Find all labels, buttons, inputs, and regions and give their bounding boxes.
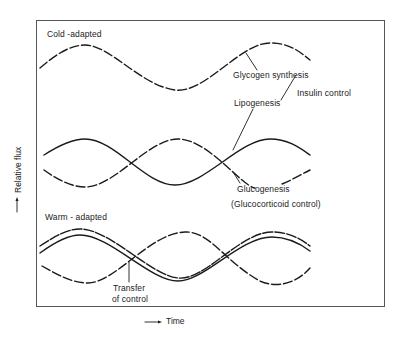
cold-glucogenesis-curve-end	[282, 170, 310, 184]
cold-glucogenesis-curve	[44, 139, 255, 188]
flux-curves	[0, 0, 399, 339]
y-axis-label: Relative flux	[13, 147, 23, 193]
glycogen-leader	[246, 53, 257, 70]
transfer-label-line2: of control	[112, 294, 148, 304]
glycogen-synthesis-label: Glycogen synthesis	[233, 70, 309, 80]
cold-glycogen-curve	[40, 43, 310, 90]
warm-adapted-label: Warm - adapted	[45, 212, 107, 222]
warm-glycogen-curve	[40, 229, 310, 278]
cold-lipogenesis-curve	[44, 139, 310, 185]
glucocorticoid-control-label: (Glucocorticoid control)	[231, 199, 321, 209]
glucogenesis-label: Glucogenesis	[237, 184, 290, 194]
x-axis-arrowhead	[158, 321, 162, 324]
insulin-control-label: Insulin control	[297, 88, 351, 98]
warm-lipogenesis-curve	[40, 235, 310, 281]
lipogenesis-label: Lipogenesis	[234, 98, 280, 108]
cold-adapted-label: Cold -adapted	[47, 29, 102, 39]
warm-glucogenesis-curve	[42, 232, 310, 285]
x-axis-label: Time	[166, 316, 185, 326]
y-axis-arrowhead	[16, 197, 19, 201]
transfer-label-line1: Transfer	[113, 283, 145, 293]
